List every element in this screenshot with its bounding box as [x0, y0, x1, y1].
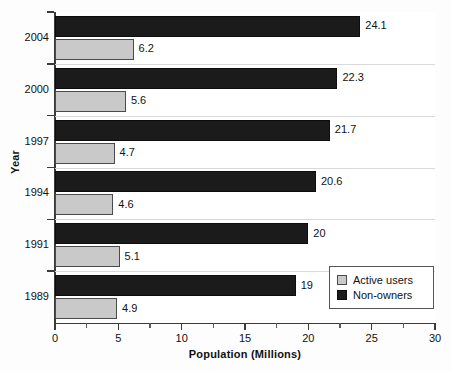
- x-axis-label: 25: [357, 332, 387, 344]
- y-axis-title-text: Year: [9, 150, 21, 174]
- bar-non-owners: [55, 223, 308, 244]
- bar-active-users: [55, 39, 134, 60]
- legend-label-non-owners: Non-owners: [353, 289, 412, 301]
- bar-active-users: [55, 91, 126, 112]
- x-axis-tick: [244, 323, 246, 330]
- y-axis-tick: [47, 11, 54, 13]
- gridline: [55, 64, 435, 65]
- x-axis-tick: [371, 323, 373, 330]
- gridline: [55, 219, 435, 220]
- y-axis-title: Year: [4, 0, 26, 324]
- gridline: [55, 116, 435, 117]
- y-axis-label: 1994: [9, 186, 49, 198]
- bar-value-non-owners: 21.7: [335, 123, 356, 135]
- bar-active-users: [55, 143, 115, 164]
- y-axis-label: 2000: [9, 83, 49, 95]
- y-axis-label: 2004: [9, 31, 49, 43]
- x-axis-label: 10: [167, 332, 197, 344]
- bar-non-owners: [55, 68, 337, 89]
- y-axis-tick: [47, 115, 54, 117]
- bar-active-users: [55, 298, 117, 319]
- bar-non-owners: [55, 120, 330, 141]
- bar-non-owners: [55, 275, 296, 296]
- x-axis-tick: [54, 323, 56, 330]
- x-axis-minor-tick: [213, 323, 215, 328]
- bar-value-active-users: 5.6: [131, 94, 146, 106]
- bar-value-non-owners: 19: [301, 279, 313, 291]
- bar-value-active-users: 4.6: [118, 198, 133, 210]
- x-axis-label: 0: [40, 332, 70, 344]
- x-axis-minor-tick: [276, 323, 278, 328]
- legend-item-non-owners: Non-owners: [337, 287, 426, 302]
- bar-value-non-owners: 24.1: [365, 19, 386, 31]
- bar-active-users: [55, 194, 113, 215]
- bar-active-users: [55, 246, 120, 267]
- y-axis-tick: [47, 219, 54, 221]
- bar-value-active-users: 5.1: [125, 250, 140, 262]
- x-axis-label: 15: [230, 332, 260, 344]
- bar-value-non-owners: 20: [313, 227, 325, 239]
- y-axis-label: 1989: [9, 290, 49, 302]
- chart-legend: Active users Non-owners: [329, 266, 434, 309]
- legend-swatch-non-owners-icon: [337, 290, 347, 300]
- chart-screenshot: Year 200424.16.2200022.35.6199721.74.719…: [0, 0, 451, 372]
- legend-swatch-active-users-icon: [337, 275, 347, 285]
- x-axis-label: 20: [293, 332, 323, 344]
- bar-value-active-users: 4.9: [122, 302, 137, 314]
- y-axis-tick: [47, 63, 54, 65]
- x-axis-tick: [308, 323, 310, 330]
- bar-value-active-users: 4.7: [120, 146, 135, 158]
- bar-value-non-owners: 22.3: [342, 71, 363, 83]
- y-axis-tick: [47, 270, 54, 272]
- x-axis-minor-tick: [339, 323, 341, 328]
- x-axis-minor-tick: [403, 323, 405, 328]
- y-axis-tick: [47, 167, 54, 169]
- x-axis-tick: [181, 323, 183, 330]
- x-axis-tick: [118, 323, 120, 330]
- legend-label-active-users: Active users: [353, 274, 413, 286]
- y-axis-label: 1991: [9, 238, 49, 250]
- bar-non-owners: [55, 171, 316, 192]
- y-axis-label: 1997: [9, 135, 49, 147]
- bar-value-non-owners: 20.6: [321, 175, 342, 187]
- gridline: [55, 168, 435, 169]
- bar-non-owners: [55, 16, 360, 37]
- x-axis-title: Population (Millions): [55, 348, 435, 360]
- x-axis-tick: [434, 323, 436, 330]
- x-axis-minor-tick: [86, 323, 88, 328]
- x-axis-label: 30: [420, 332, 450, 344]
- x-axis-label: 5: [103, 332, 133, 344]
- bar-value-active-users: 6.2: [139, 42, 154, 54]
- x-axis-minor-tick: [149, 323, 151, 328]
- legend-item-active-users: Active users: [337, 272, 426, 287]
